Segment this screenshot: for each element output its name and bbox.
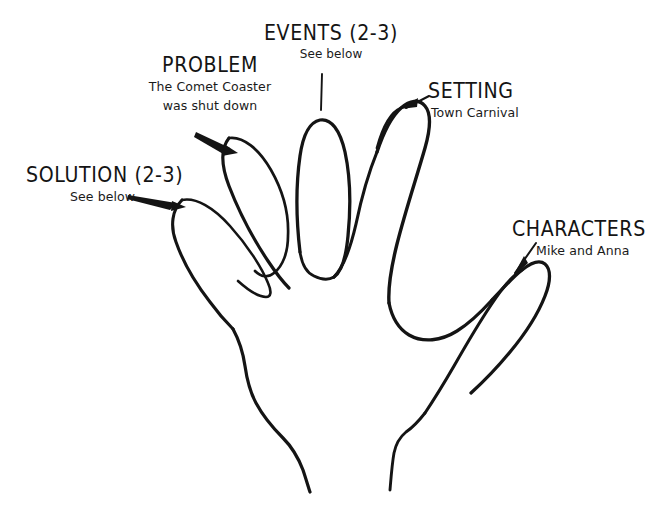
label-setting: SETTING Town Carnival [428,82,519,121]
label-problem-subtitle-line2: was shut down [128,98,292,114]
label-characters-title: CHARACTERS [512,218,646,240]
middle-finger-outline [297,120,350,277]
label-characters-subtitle: Mike and Anna [536,243,646,259]
label-events-title: EVENTS (2-3) [258,22,404,44]
label-solution: SOLUTION (2-3) See below [26,166,183,205]
label-problem: PROBLEM The Comet Coaster was shut down [128,56,292,113]
label-solution-title: SOLUTION (2-3) [26,164,183,186]
label-setting-subtitle: Town Carnival [431,105,519,121]
middle-index-valley [334,152,377,277]
wrist-right-line [390,413,425,490]
events-pointer-line [321,74,322,110]
label-solution-subtitle: See below [70,189,183,205]
middle-finger-outline-inner [300,252,334,279]
story-planner-page: EVENTS (2-3) See below PROBLEM The Comet… [0,0,669,516]
label-setting-title: SETTING [428,80,519,102]
palm-right-edge [389,300,492,340]
label-characters: CHARACTERS Mike and Anna [512,220,646,259]
palm-left-edge [233,329,310,492]
problem-pointer-arrow-tail [222,144,238,156]
index-finger-outline [377,101,430,303]
label-problem-subtitle-line1: The Comet Coaster [128,79,292,95]
label-problem-title: PROBLEM [128,54,292,76]
